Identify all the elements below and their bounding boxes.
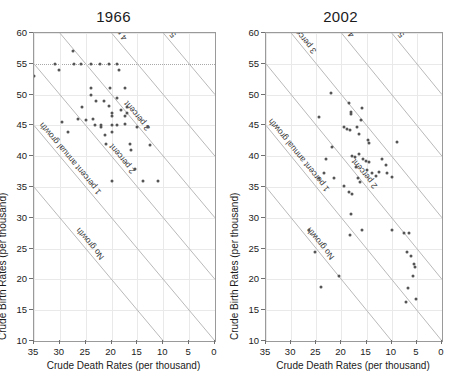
data-point [322,172,325,175]
y-tick-label-60: 60 [232,27,259,38]
y-axis-title: Crude Birth Rates (per thousand) [0,193,8,340]
x-tick-30 [59,340,60,344]
data-point [92,118,95,121]
panel-title-2002: 2002 [227,8,454,25]
data-point [80,105,83,108]
data-point [360,229,363,232]
data-point [370,172,373,175]
y-tick-15 [29,309,33,310]
data-point [118,68,121,71]
data-point [307,229,310,232]
data-point [367,141,370,144]
data-point [157,179,160,182]
data-point [53,62,56,65]
data-point [110,130,113,133]
plot-area-2002: No growth1 percent annual growth2 percen… [265,32,443,342]
x-tick-label-35: 35 [28,346,39,357]
data-point [76,118,79,121]
data-point [358,153,361,156]
data-point [107,62,110,65]
data-point [390,176,393,179]
x-tick-25 [85,340,86,344]
data-point [374,174,377,177]
iso-growth-lines [266,33,442,341]
data-point [141,179,144,182]
data-point [115,124,118,127]
x-tick-label-5: 5 [185,346,190,357]
x-tick-label-0: 0 [211,346,216,357]
data-point [123,87,126,90]
data-point [354,166,357,169]
data-point [61,121,64,124]
data-point [331,145,334,148]
data-point [95,99,98,102]
demographic-transition-figure: 1966 No growth1 percent annual growth2 p… [0,0,454,382]
x-tick-label-30: 30 [54,346,65,357]
data-point [79,62,82,65]
data-point [100,125,103,128]
data-point [109,87,112,90]
iso-growth-lines [34,33,215,341]
data-point [317,115,320,118]
data-point [355,125,358,128]
data-point [378,171,381,174]
data-point [89,93,92,96]
data-point [347,190,350,193]
y-tick-45 [29,124,33,125]
y-tick-label-40: 40 [0,150,27,161]
y-tick-45 [261,124,265,125]
data-point [130,149,133,152]
y-tick-label-45: 45 [232,119,259,130]
data-point [365,168,368,171]
data-point [105,142,108,145]
data-point [395,141,398,144]
x-tick-label-15: 15 [360,346,371,357]
x-tick-20 [111,340,112,344]
x-tick-0 [441,340,442,344]
data-point [94,124,97,127]
y-tick-label-40: 40 [232,150,259,161]
x-tick-15 [366,340,367,344]
y-tick-50 [29,94,33,95]
data-point [73,62,76,65]
panel-title-1966: 1966 [0,8,227,25]
y-tick-label-45: 45 [0,119,27,130]
data-point [358,133,361,136]
y-tick-40 [29,155,33,156]
y-tick-40 [261,155,265,156]
data-point [102,99,105,102]
data-point [409,254,412,257]
y-tick-60 [261,32,265,33]
plot-area-1966: No growth1 percent annual growth2 percen… [33,32,216,342]
data-point [359,119,362,122]
data-point [325,158,328,161]
data-point [115,96,118,99]
data-point [356,176,359,179]
data-point [110,115,113,118]
y-tick-25 [261,248,265,249]
data-point [353,156,356,159]
data-point [390,229,393,232]
data-point [406,287,409,290]
x-tick-label-10: 10 [385,346,396,357]
data-point [146,125,149,128]
data-point [107,104,110,107]
x-tick-label-10: 10 [157,346,168,357]
data-point [66,130,69,133]
data-point [123,123,126,126]
data-point [126,112,129,115]
x-tick-label-35: 35 [260,346,271,357]
data-point [320,285,323,288]
x-tick-20 [340,340,341,344]
data-point [414,298,417,301]
data-point [110,124,113,127]
data-point [133,167,136,170]
y-tick-60 [29,32,33,33]
panel-1966: 1966 No growth1 percent annual growth2 p… [0,0,227,382]
data-point [149,144,152,147]
data-point [349,234,352,237]
data-point [342,184,345,187]
y-tick-label-35: 35 [0,181,27,192]
y-tick-20 [29,278,33,279]
x-tick-35 [33,340,34,344]
